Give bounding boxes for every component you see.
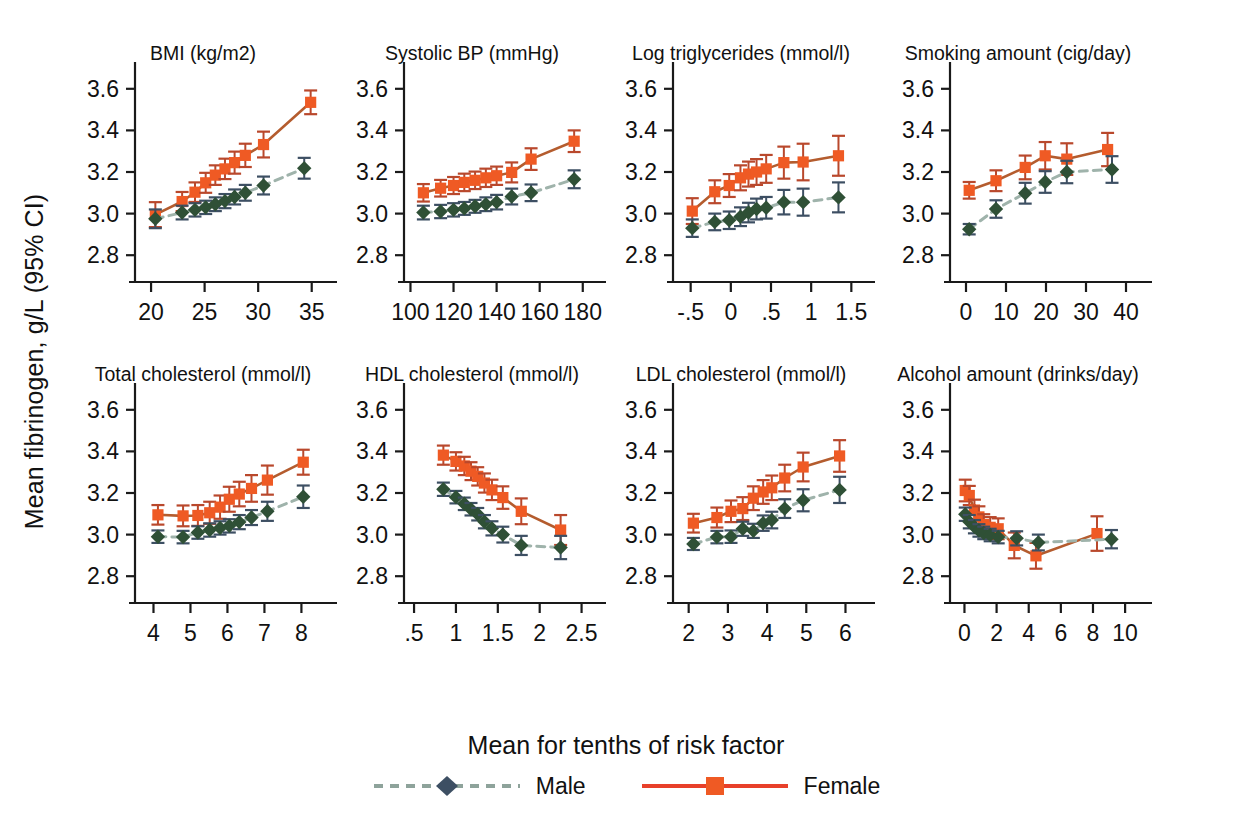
errorbar-male <box>416 205 430 219</box>
errorbar-male <box>176 530 190 544</box>
x-tick-label: 35 <box>299 299 325 325</box>
y-tick-label: 3.6 <box>902 76 934 102</box>
marker-female <box>751 166 762 177</box>
errorbar-male <box>685 219 699 236</box>
errorbar-female <box>261 466 274 495</box>
x-tick-label: 6 <box>839 620 852 646</box>
y-tick-label: 3.4 <box>902 438 934 464</box>
errorbar-female <box>505 162 518 182</box>
y-tick-label: 2.8 <box>902 242 934 268</box>
errorbar-female <box>833 440 846 472</box>
marker-female <box>798 156 809 167</box>
x-tick-label: 8 <box>295 620 308 646</box>
errorbar-female <box>736 497 749 520</box>
marker-female <box>1030 550 1041 561</box>
errorbar-female <box>777 147 790 179</box>
errorbar-female <box>496 486 509 508</box>
errorbar-male <box>296 486 310 508</box>
marker-female <box>555 524 566 535</box>
marker-male <box>1018 186 1032 200</box>
marker-male <box>1038 175 1052 189</box>
plot-area: 2.83.03.23.43.645678 <box>135 389 339 659</box>
marker-female <box>748 493 759 504</box>
y-tick-label: 3.0 <box>625 522 657 548</box>
legend: Male Female <box>0 763 1252 809</box>
marker-female <box>486 484 497 495</box>
y-tick-label: 3.4 <box>356 438 388 464</box>
x-tick-label: 7 <box>258 620 271 646</box>
chart-panel: Alcohol amount (drinks/day)2.83.03.23.43… <box>872 363 1164 649</box>
x-tick-label: 140 <box>477 299 515 325</box>
x-tick-label: -.5 <box>677 299 704 325</box>
marker-male <box>191 525 205 539</box>
marker-male <box>151 529 165 543</box>
figure-root: Mean fibrinogen, g/L (95% CI) BMI (kg/m2… <box>0 0 1252 834</box>
plot-area: 2.83.03.23.43.6100120140160180 <box>404 68 608 338</box>
legend-item-female[interactable]: Female <box>640 773 881 800</box>
errorbar-female <box>963 182 976 199</box>
y-tick-label: 2.8 <box>902 563 934 589</box>
y-tick-label: 2.8 <box>625 563 657 589</box>
errorbar-female <box>797 453 810 482</box>
x-tick-label: 2 <box>990 620 1003 646</box>
errorbar-male <box>796 189 810 216</box>
x-tick-label: 2 <box>682 620 695 646</box>
panel-title: Systolic BP (mmHg) <box>326 42 618 65</box>
errorbar-male <box>796 489 810 511</box>
marker-female <box>778 157 789 168</box>
errorbar-female <box>245 475 258 502</box>
marker-female <box>200 177 211 188</box>
plot-area: 2.83.03.23.43.623456 <box>673 389 877 659</box>
errorbar-female <box>710 508 723 528</box>
errorbar-female <box>515 498 528 524</box>
y-tick-label: 3.6 <box>625 76 657 102</box>
marker-male <box>256 178 270 192</box>
x-tick-label: 10 <box>993 299 1019 325</box>
errorbar-male <box>436 482 450 496</box>
errorbar-female <box>723 174 736 197</box>
y-tick-label: 3.4 <box>625 438 657 464</box>
x-tick-label: 3 <box>721 620 734 646</box>
y-tick-label: 3.2 <box>902 159 934 185</box>
errorbar-male <box>778 499 792 518</box>
x-tick-label: 8 <box>1087 620 1100 646</box>
marker-female <box>229 157 240 168</box>
y-tick-label: 3.2 <box>625 159 657 185</box>
x-tick-label: 2 <box>533 620 546 646</box>
y-tick-label: 3.0 <box>87 201 119 227</box>
marker-male <box>796 195 810 209</box>
errorbar-male <box>710 530 724 544</box>
x-tick-label: 6 <box>221 620 234 646</box>
y-tick-label: 3.2 <box>625 480 657 506</box>
x-tick-label: 6 <box>1054 620 1067 646</box>
marker-female <box>1040 150 1051 161</box>
errorbar-female <box>525 148 538 170</box>
errorbar-male <box>514 536 528 555</box>
marker-female <box>506 167 517 178</box>
marker-female <box>709 186 720 197</box>
errorbar-male <box>777 190 791 215</box>
marker-male <box>567 172 581 186</box>
errorbar-male <box>297 158 311 179</box>
errorbar-male <box>433 204 447 218</box>
x-tick-label: 0 <box>958 620 971 646</box>
errorbar-male <box>1104 530 1118 548</box>
chart-panel: HDL cholesterol (mmol/l)2.83.03.23.43.6.… <box>326 363 618 649</box>
series-line-female <box>158 462 303 516</box>
errorbar-female <box>832 136 845 176</box>
marker-female <box>725 506 736 517</box>
legend-item-male[interactable]: Male <box>372 773 586 800</box>
errorbar-female <box>257 132 270 158</box>
marker-male <box>436 482 450 496</box>
x-tick-label: 20 <box>1033 299 1059 325</box>
marker-male <box>504 189 518 203</box>
errorbar-male <box>1038 171 1052 193</box>
marker-female <box>834 450 845 461</box>
plot-area: 2.83.03.23.43.60246810 <box>950 389 1154 659</box>
errorbar-female <box>437 446 450 465</box>
errorbar-male <box>962 222 976 236</box>
marker-male <box>1104 532 1118 546</box>
legend-label-female: Female <box>804 773 881 800</box>
plot-area: 2.83.03.23.43.6-.50.511.5 <box>673 68 877 338</box>
errorbar-female <box>177 505 190 526</box>
